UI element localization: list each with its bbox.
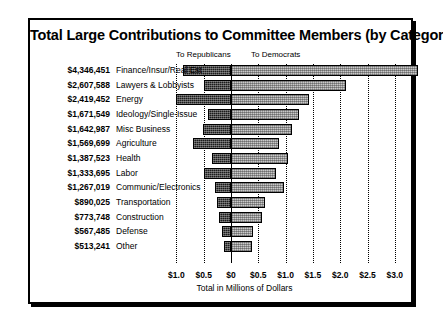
bar-democrats	[231, 124, 292, 135]
bar-republicans	[215, 182, 231, 193]
row-category-label: Construction	[116, 212, 164, 222]
row-amount: $2,419,452	[34, 94, 110, 104]
bar-democrats	[231, 168, 276, 179]
bar-democrats	[231, 153, 288, 164]
row-category-label: Defense	[116, 226, 148, 236]
row-amount: $1,671,549	[34, 109, 110, 119]
bar-democrats	[231, 226, 253, 237]
bar-republicans	[203, 124, 231, 135]
row-category-label: Misc Business	[116, 124, 170, 134]
bar-republicans	[208, 109, 231, 120]
x-axis: $1.0$0.5$0$0.5$1.0$1.5$2.0$2.5$3.0 Total…	[30, 270, 411, 304]
bar-democrats	[231, 138, 279, 149]
chart-title: Total Large Contributions to Committee M…	[30, 27, 411, 43]
bar-democrats	[231, 241, 252, 252]
x-tick-label: $1.0	[277, 270, 294, 280]
row-amount: $1,569,699	[34, 138, 110, 148]
row-category-label: Agriculture	[116, 138, 157, 148]
bar-democrats	[231, 182, 284, 193]
x-tick-label: $3.0	[387, 270, 404, 280]
row-amount: $890,025	[34, 197, 110, 207]
row-amount: $513,241	[34, 241, 110, 251]
row-amount: $567,485	[34, 226, 110, 236]
bar-republicans	[217, 197, 231, 208]
row-category-label: Health	[116, 153, 141, 163]
x-tick-label: $0.5	[250, 270, 267, 280]
x-tick-label: $0.5	[195, 270, 212, 280]
x-tick-label: $2.0	[332, 270, 349, 280]
legend-label-republicans: To Republicans	[176, 50, 231, 59]
x-tick-label: $2.5	[359, 270, 376, 280]
row-amount: $2,607,588	[34, 80, 110, 90]
legend-label-democrats: To Democrats	[251, 50, 300, 59]
bar-republicans	[219, 212, 231, 223]
row-category-label: Lawyers & Lobbyists	[116, 80, 194, 90]
bar-republicans	[204, 80, 231, 91]
row-category-label: Energy	[116, 94, 143, 104]
bar-democrats	[231, 197, 265, 208]
row-amount: $1,642,987	[34, 124, 110, 134]
bar-democrats	[231, 94, 309, 105]
bar-democrats	[231, 65, 418, 76]
bar-republicans	[204, 168, 231, 179]
x-tick-label: $0	[226, 270, 235, 280]
x-tick-label: $1.0	[168, 270, 185, 280]
x-axis-label: Total in Millions of Dollars	[30, 283, 411, 293]
x-tick-label: $1.5	[305, 270, 322, 280]
row-category-label: Finance/Insur/Real Est	[116, 65, 202, 75]
row-category-label: Ideology/Single-Issue	[116, 109, 197, 119]
chart-frame: Total Large Contributions to Committee M…	[28, 18, 413, 304]
row-category-label: Other	[116, 241, 137, 251]
bar-republicans	[222, 226, 231, 237]
row-category-label: Labor	[116, 168, 138, 178]
bar-democrats	[231, 80, 346, 91]
chart-legend: To Republicans To Democrats	[30, 50, 411, 62]
bar-republicans	[212, 153, 231, 164]
bar-republicans	[224, 241, 231, 252]
row-amount: $1,267,019	[34, 182, 110, 192]
bar-democrats	[231, 109, 299, 120]
row-amount: $1,387,523	[34, 153, 110, 163]
bar-republicans	[193, 138, 231, 149]
row-amount: $773,748	[34, 212, 110, 222]
row-amount: $1,333,695	[34, 168, 110, 178]
bar-republicans	[176, 94, 231, 105]
bar-democrats	[231, 212, 262, 223]
row-category-label: Transportation	[116, 197, 171, 207]
row-category-label: Communic/Electronics	[116, 182, 201, 192]
row-amount: $4,346,451	[34, 65, 110, 75]
